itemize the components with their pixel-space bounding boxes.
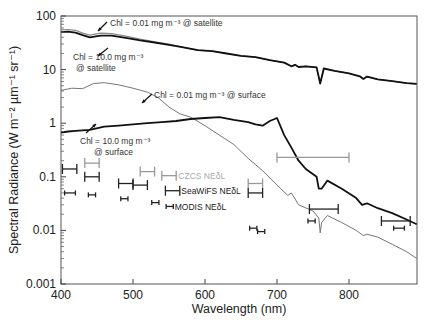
y-tick-label: 100 [36, 9, 56, 23]
y-tick-label: 1 [49, 116, 56, 130]
series-line-3 [61, 117, 417, 224]
curve-annotation: @ satellite [76, 63, 116, 73]
annotation-layer: Chl = 0.01 mg m⁻³ @ satelliteChl = 10.0 … [73, 18, 266, 157]
error-bar-layer: CZCS NEδLSeaWiFS NEδLMODIS NEδL [62, 152, 410, 234]
curve-annotation: Chl = 10.0 mg m⁻³ [80, 136, 151, 146]
series-line-2 [61, 83, 417, 259]
y-tick-label: 0.01 [33, 223, 57, 237]
spectral-radiance-chart: CZCS NEδLSeaWiFS NEδLMODIS NEδL Chl = 0.… [0, 0, 428, 327]
legend-czcs: CZCS NEδL [178, 171, 225, 181]
x-axis-title: Wavelength (nm) [192, 302, 287, 316]
legend-modis: MODIS NEδL [175, 202, 227, 212]
curve-annotation: @ surface [94, 147, 133, 157]
x-tick-label: 600 [195, 288, 215, 302]
curve-annotation: Chl = 0.01 mg m⁻³ @ surface [154, 90, 266, 100]
y-axis-title: Spectral Radiance (W m⁻² µm⁻¹ sr⁻¹) [7, 46, 21, 254]
x-tick-label: 800 [339, 288, 359, 302]
y-tick-label: 0.1 [39, 170, 56, 184]
curve-annotation: Chl = 10.0 mg m⁻³ [73, 52, 144, 62]
legend-seawifs: SeaWiFS NEδL [181, 186, 241, 196]
curve-annotation: Chl = 0.01 mg m⁻³ @ satellite [110, 18, 223, 28]
x-tick-label: 700 [267, 288, 287, 302]
y-tick-label: 10 [43, 63, 57, 77]
x-tick-label: 500 [123, 288, 143, 302]
x-tick-label: 400 [51, 288, 71, 302]
